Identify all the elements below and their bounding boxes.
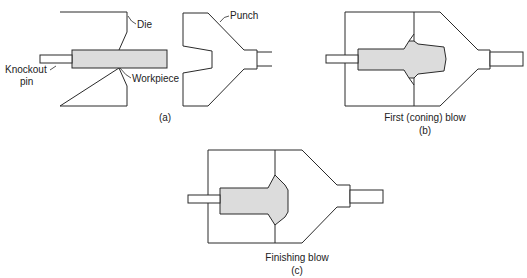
workpiece-a bbox=[72, 50, 167, 68]
caption-b: (b) bbox=[419, 125, 431, 136]
punch-stem-a bbox=[257, 52, 272, 66]
knockout-pin-c bbox=[188, 195, 220, 203]
knockout-leader bbox=[50, 66, 56, 70]
die-leader bbox=[128, 16, 136, 24]
label-punch: Punch bbox=[230, 10, 258, 21]
subtitle-c: Finishing blow bbox=[265, 252, 329, 263]
caption-a: (a) bbox=[159, 112, 171, 123]
subtitle-b: First (coning) blow bbox=[384, 112, 466, 123]
punch-leader bbox=[220, 16, 229, 22]
panel-c: Finishing blow (c) bbox=[188, 150, 383, 276]
label-knockout: Knockout bbox=[5, 64, 47, 75]
panel-b: First (coning) blow (b) bbox=[326, 12, 523, 136]
caption-c: (c) bbox=[291, 265, 303, 276]
knockout-pin-a bbox=[40, 55, 72, 63]
label-pin: pin bbox=[20, 76, 33, 87]
punch-a bbox=[183, 13, 257, 106]
knockout-pin-b bbox=[326, 55, 358, 63]
forging-diagram: Die Punch Workpiece Knockout pin (a) Fir… bbox=[0, 0, 527, 278]
punch-stem-b bbox=[490, 52, 523, 66]
workpiece-b bbox=[358, 41, 446, 78]
workpiece-c bbox=[220, 175, 288, 225]
punch-stem-c bbox=[350, 190, 383, 203]
label-workpiece: Workpiece bbox=[132, 73, 179, 84]
label-die: Die bbox=[137, 19, 152, 30]
panel-a: Die Punch Workpiece Knockout pin (a) bbox=[5, 10, 272, 123]
